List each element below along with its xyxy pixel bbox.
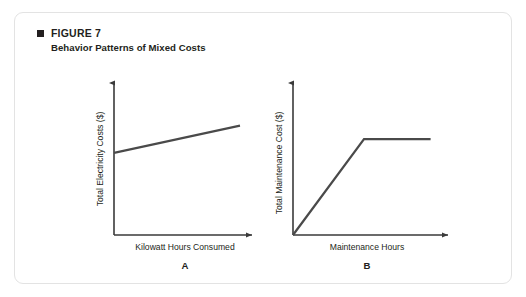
figure-number-row: FIGURE 7: [37, 27, 457, 39]
filled-square-icon: [37, 30, 44, 37]
chart-panel-b: Total Maintenance Cost ($) Maintenance H…: [274, 83, 448, 271]
chart-a-x-axis-label: Kilowatt Hours Consumed: [135, 242, 235, 252]
chart-a-data-line: [114, 126, 240, 153]
figure-heading: FIGURE 7 Behavior Patterns of Mixed Cost…: [37, 27, 457, 54]
figure-card: FIGURE 7 Behavior Patterns of Mixed Cost…: [14, 12, 512, 284]
figure-number: FIGURE 7: [51, 27, 101, 39]
chart-b-panel-letter: B: [364, 260, 371, 271]
chart-b-data-line: [293, 139, 431, 235]
chart-b-y-axis-label: Total Maintenance Cost ($): [274, 112, 284, 215]
chart-a-y-axis-label: Total Electricity Costs ($): [95, 112, 105, 207]
figure-subtitle: Behavior Patterns of Mixed Costs: [51, 42, 457, 54]
chart-a-panel-letter: A: [182, 260, 189, 271]
figure-screenshot: FIGURE 7 Behavior Patterns of Mixed Cost…: [0, 0, 526, 297]
chart-panel-a: Total Electricity Costs ($) Kilowatt Hou…: [95, 83, 252, 271]
chart-b-x-axis-label: Maintenance Hours: [330, 242, 405, 252]
